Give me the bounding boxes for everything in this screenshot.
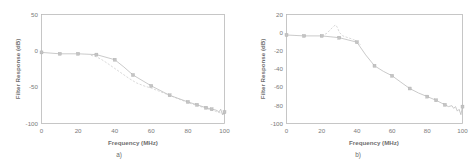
panel-a-marker — [186, 100, 189, 103]
panel-b-ytick-neg100: -100 — [271, 120, 284, 127]
panel-b-xtick-40: 40 — [353, 127, 360, 134]
panel-b-marker — [426, 95, 429, 98]
panel-b-ytick-neg40: -40 — [274, 65, 284, 72]
panel-b: 20 0 -20 -40 -60 -80 -100 0 20 40 60 80 … — [238, 0, 476, 167]
panel-b-xtick-0: 0 — [285, 127, 289, 134]
panel-b-marker — [408, 87, 411, 90]
panel-a: 50 0 -50 -100 0 20 40 60 80 100 Frequenc… — [0, 0, 238, 167]
panel-b-marker — [303, 34, 306, 37]
panel-a-marker — [58, 52, 61, 55]
panel-b-ytick-0: 0 — [280, 29, 284, 36]
panel-a-xaxis-label: Frequency (MHz) — [108, 139, 158, 146]
panel-b-marker — [443, 103, 446, 106]
panel-b-ytick-neg60: -60 — [274, 83, 284, 90]
panel-a-series-simulated — [91, 55, 225, 114]
panel-b-xtick-20: 20 — [318, 127, 325, 134]
panel-b-yaxis-label: Filter Response (dB) — [259, 39, 266, 100]
panel-b-xtick-60: 60 — [389, 127, 396, 134]
panel-a-marker — [205, 106, 208, 109]
panel-b-marker — [285, 34, 288, 37]
panel-b-ytick-neg20: -20 — [274, 47, 284, 54]
panel-a-marker — [168, 94, 171, 97]
panel-b-marker — [355, 41, 358, 44]
panel-b-marker — [320, 34, 323, 37]
panel-b-xaxis-label: Frequency (MHz) — [349, 139, 399, 146]
panel-a-plot: 50 0 -50 -100 0 20 40 60 80 100 Frequenc… — [0, 0, 238, 167]
panel-a-marker — [210, 108, 213, 111]
panel-b-caption: b) — [355, 151, 361, 159]
panel-a-yaxis-label: Filter Response (dB) — [14, 39, 21, 100]
panel-b-marker — [391, 74, 394, 77]
panel-a-ytick-50: 50 — [31, 11, 38, 18]
panel-b-xtick-100: 100 — [457, 127, 468, 134]
panel-b-ytick-neg80: -80 — [274, 102, 284, 109]
panel-a-xtick-0: 0 — [40, 127, 44, 134]
panel-a-caption: a) — [116, 151, 122, 159]
panel-a-marker — [132, 74, 135, 77]
panel-b-series-measured — [287, 35, 463, 115]
panel-a-xtick-100: 100 — [219, 127, 230, 134]
panel-b-ytick-20: 20 — [276, 11, 283, 18]
panel-a-plot-frame — [42, 15, 225, 124]
panel-a-marker — [196, 103, 199, 106]
panel-a-xtick-60: 60 — [148, 127, 155, 134]
panel-b-marker — [338, 36, 341, 39]
panel-a-marker — [223, 111, 226, 114]
panel-a-xtick-40: 40 — [111, 127, 118, 134]
panel-a-marker — [77, 52, 80, 55]
panel-a-xtick-80: 80 — [184, 127, 191, 134]
panel-b-marker — [435, 99, 438, 102]
panel-a-ytick-0: 0 — [35, 47, 39, 54]
panel-a-xtick-20: 20 — [75, 127, 82, 134]
panel-a-marker — [150, 84, 153, 87]
panel-a-marker — [95, 53, 98, 56]
panel-a-marker — [113, 58, 116, 61]
panel-b-marker — [461, 105, 464, 108]
panel-a-marker — [40, 51, 43, 54]
panel-b-xtick-80: 80 — [424, 127, 431, 134]
panel-b-plot-frame — [287, 15, 463, 124]
panel-b-marker — [373, 64, 376, 67]
figure-container: 50 0 -50 -100 0 20 40 60 80 100 Frequenc… — [0, 0, 476, 167]
panel-a-ytick-neg50: -50 — [29, 83, 39, 90]
panel-a-ytick-neg100: -100 — [26, 120, 39, 127]
panel-b-plot: 20 0 -20 -40 -60 -80 -100 0 20 40 60 80 … — [238, 0, 476, 167]
